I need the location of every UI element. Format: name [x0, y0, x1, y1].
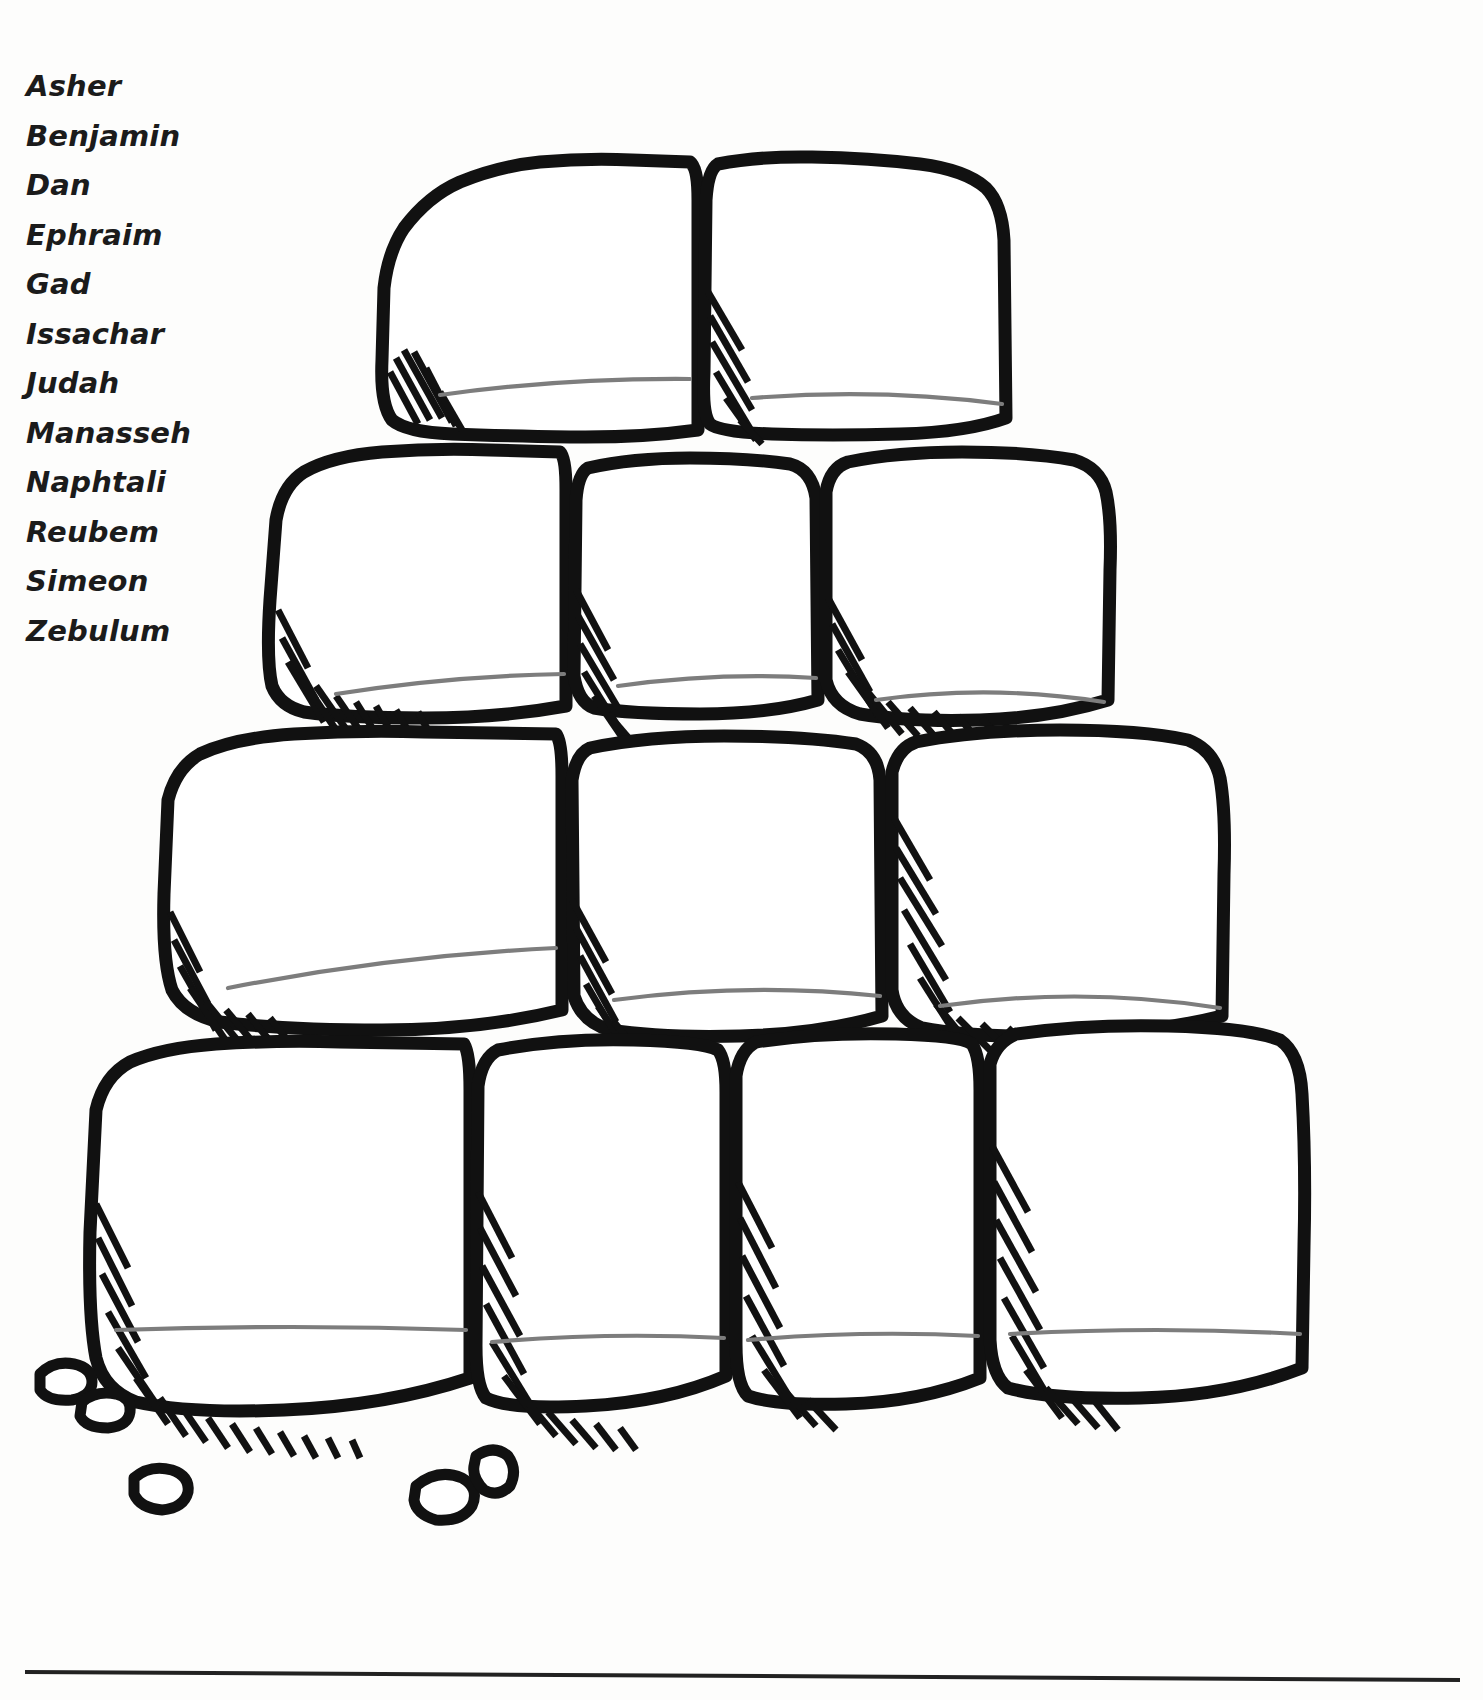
list-item: Dan	[26, 161, 326, 211]
pebble-2	[80, 1393, 130, 1428]
stone-row1-col2	[704, 157, 1006, 444]
stone-row3-col2	[572, 736, 882, 1050]
pebble-5	[474, 1450, 514, 1493]
list-item: Gad	[26, 260, 326, 310]
stone-row4-col3	[736, 1034, 980, 1430]
pebble-4	[414, 1474, 474, 1520]
tribe-name-list: Asher Benjamin Dan Ephraim Gad Issachar …	[26, 62, 326, 656]
stone-row4-col2	[476, 1040, 726, 1450]
worksheet-page: Asher Benjamin Dan Ephraim Gad Issachar …	[0, 0, 1483, 1700]
stone-row2-col3	[826, 452, 1111, 738]
list-item: Ephraim	[26, 211, 326, 261]
stone-row1-col1	[382, 159, 698, 437]
stone-row3-col1	[164, 731, 562, 1046]
stone-row4-col4	[990, 1026, 1305, 1430]
list-item: Naphtali	[26, 458, 326, 508]
list-item: Reubem	[26, 508, 326, 558]
list-item: Benjamin	[26, 112, 326, 162]
pebble-3	[134, 1468, 188, 1510]
list-item: Asher	[26, 62, 326, 112]
stone-row4-col1	[90, 1041, 470, 1458]
stone-row3-col3	[892, 730, 1225, 1052]
list-item: Zebulum	[26, 607, 326, 657]
list-item: Issachar	[26, 310, 326, 360]
list-item: Manasseh	[26, 409, 326, 459]
list-item: Simeon	[26, 557, 326, 607]
list-item: Judah	[26, 359, 326, 409]
stone-row2-col2	[574, 458, 818, 742]
